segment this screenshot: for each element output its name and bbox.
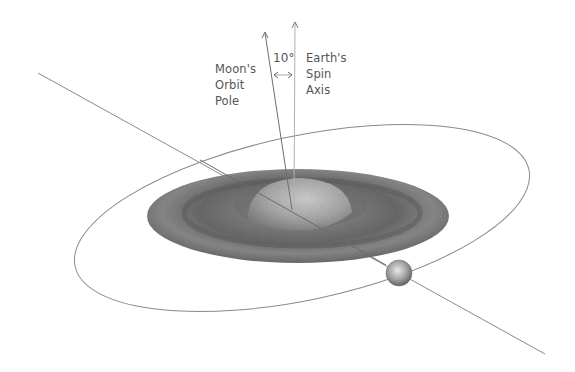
moon-label-line-3: Pole [215,93,256,109]
earth-label-line-3: Axis [306,82,347,98]
angle-double-arrow-icon [274,72,292,78]
earth-label-line-1: Earth's [306,50,347,66]
moon-label-line-1: Moon's [215,61,256,77]
angle-label: 10° [273,50,295,66]
moon-orbit-pole-label: Moon's Orbit Pole [215,61,256,109]
moon-label-line-2: Orbit [215,77,256,93]
earth-label-line-2: Spin [306,66,347,82]
moon-sphere [386,260,412,286]
earth-spin-axis-label: Earth's Spin Axis [306,50,347,98]
